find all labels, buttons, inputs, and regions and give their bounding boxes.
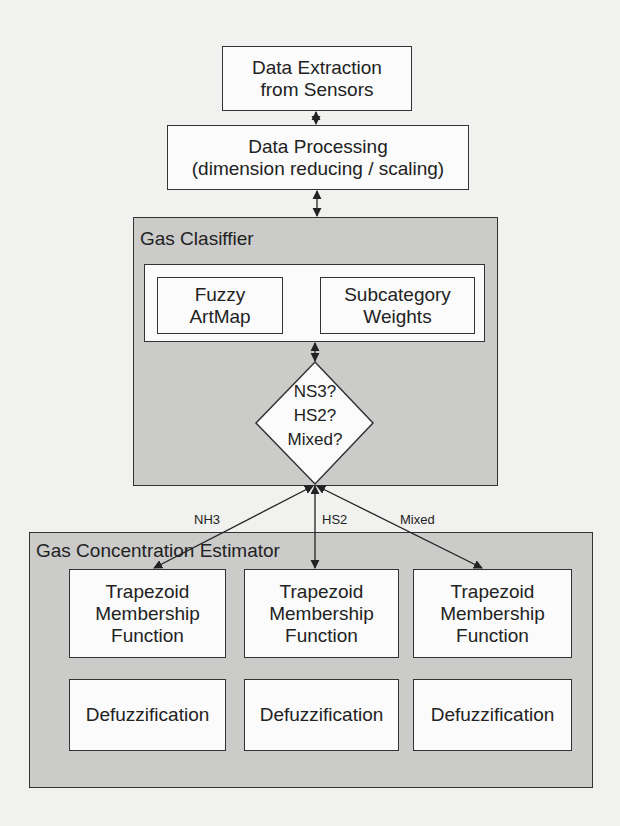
defuzzification-box-nh3: Defuzzification: [69, 679, 226, 751]
gas-classifier-title: Gas Clasiffier: [140, 228, 254, 250]
decision-line-ns3: NS3?: [255, 380, 375, 404]
subcategory-weights-box: Subcategory Weights: [320, 277, 475, 334]
membership-function-label: Trapezoid Membership Function: [440, 581, 545, 647]
membership-function-label: Trapezoid Membership Function: [95, 581, 200, 647]
data-extraction-label: Data Extraction from Sensors: [252, 57, 382, 101]
defuzzification-label: Defuzzification: [260, 704, 384, 726]
membership-function-box-hs2: Trapezoid Membership Function: [244, 569, 399, 658]
membership-function-label: Trapezoid Membership Function: [269, 581, 374, 647]
data-extraction-box: Data Extraction from Sensors: [222, 46, 412, 111]
subcategory-weights-label: Subcategory Weights: [344, 284, 451, 328]
defuzzification-label: Defuzzification: [431, 704, 555, 726]
decision-text: NS3? HS2? Mixed?: [255, 380, 375, 452]
data-processing-box: Data Processing (dimension reducing / sc…: [167, 125, 469, 190]
edge-label-hs2: HS2: [322, 512, 347, 527]
defuzzification-box-hs2: Defuzzification: [244, 679, 399, 751]
fuzzy-artmap-box: Fuzzy ArtMap: [157, 277, 283, 334]
defuzzification-box-mixed: Defuzzification: [413, 679, 572, 751]
membership-function-box-mixed: Trapezoid Membership Function: [413, 569, 572, 658]
membership-function-box-nh3: Trapezoid Membership Function: [69, 569, 226, 658]
defuzzification-label: Defuzzification: [86, 704, 210, 726]
decision-line-mixed: Mixed?: [255, 428, 375, 452]
data-processing-label: Data Processing (dimension reducing / sc…: [192, 136, 444, 180]
edge-label-mixed: Mixed: [400, 512, 435, 527]
edge-label-nh3: NH3: [194, 512, 220, 527]
gas-concentration-estimator-title: Gas Concentration Estimator: [36, 540, 280, 562]
fuzzy-artmap-label: Fuzzy ArtMap: [189, 284, 250, 328]
decision-line-hs2: HS2?: [255, 404, 375, 428]
